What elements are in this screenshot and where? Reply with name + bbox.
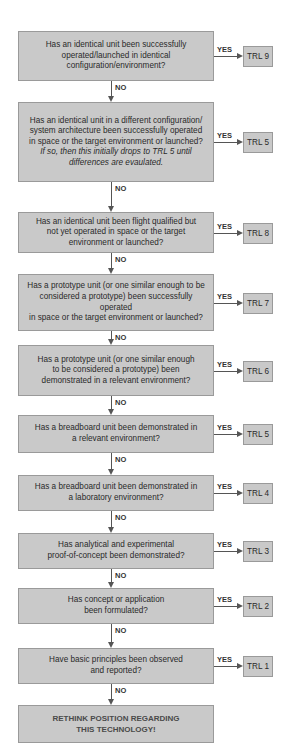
question-text: proof-of-concept been demonstrated?	[47, 551, 184, 562]
no-label: NO	[115, 333, 126, 342]
question-text: a laboratory environment?	[68, 493, 163, 504]
yes-label: YES	[217, 222, 232, 231]
no-label: NO	[115, 398, 126, 407]
question-text: been formulated?	[84, 606, 148, 617]
no-label: NO	[115, 686, 126, 695]
yes-label: YES	[217, 423, 232, 432]
trl-result-box: TRL 6	[243, 361, 273, 382]
question-box: Has analytical and experimentalproof-of-…	[18, 533, 214, 569]
trl-result-box: TRL 5	[243, 424, 273, 445]
no-connector	[111, 624, 112, 643]
trl-result-box: TRL 9	[243, 46, 273, 67]
no-connector	[111, 684, 112, 700]
question-text: Has concept or application	[68, 595, 165, 606]
yes-connector	[214, 233, 238, 234]
question-box: Have basic principles been observedand r…	[18, 648, 214, 684]
question-text: environment or launched?	[69, 238, 164, 249]
no-label: NO	[115, 571, 126, 580]
no-connector	[111, 511, 112, 528]
no-label: NO	[115, 255, 126, 264]
question-box: Has a breadboard unit been demonstrated …	[18, 475, 214, 511]
question-note: differences are evaulated.	[69, 158, 163, 169]
yes-connector	[214, 434, 238, 435]
question-text: demonstrated in a relevant environment?	[42, 376, 191, 387]
yes-connector	[214, 303, 238, 304]
yes-label: YES	[217, 595, 232, 604]
question-text: Has an identical unit been successfully	[46, 40, 187, 51]
trl-result-box: TRL 3	[243, 541, 273, 562]
question-text: considered a prototype) been successfull…	[25, 292, 207, 313]
no-connector	[111, 569, 112, 583]
question-text: Has analytical and experimental	[58, 540, 174, 551]
trl-result-box: TRL 1	[243, 656, 273, 677]
yes-connector	[214, 551, 238, 552]
question-text: Has a prototype unit (or one similar eno…	[37, 355, 194, 366]
yes-connector	[214, 666, 238, 667]
yes-label: YES	[217, 45, 232, 54]
question-box: Has concept or applicationbeen formulate…	[18, 588, 214, 624]
question-text: Has a breadboard unit been demonstrated …	[35, 482, 198, 493]
yes-label: YES	[217, 131, 232, 140]
trl-result-box: TRL 4	[243, 483, 273, 504]
no-connector	[111, 453, 112, 470]
question-box: Has an identical unit been successfullyo…	[18, 31, 214, 81]
trl-result-box: TRL 7	[243, 293, 273, 314]
no-connector	[111, 81, 112, 97]
yes-label: YES	[217, 360, 232, 369]
question-box: Has an identical unit been flight qualif…	[18, 212, 214, 253]
yes-connector	[214, 371, 238, 372]
question-box: Has a prototype unit (or one similar eno…	[18, 345, 214, 396]
final-text: THIS TECHNOLOGY!	[76, 724, 156, 735]
question-text: and reported?	[91, 666, 142, 677]
yes-label: YES	[217, 292, 232, 301]
question-text: Has an identical unit been flight qualif…	[36, 217, 196, 228]
final-conclusion-box: RETHINK POSITION REGARDINGTHIS TECHNOLOG…	[18, 705, 214, 743]
question-text: Have basic principles been observed	[49, 655, 183, 666]
question-text: not yet operated in space or the target	[47, 227, 185, 238]
no-label: NO	[115, 184, 126, 193]
no-connector	[111, 253, 112, 269]
no-connector	[111, 182, 112, 207]
trl-result-box: TRL 5	[243, 132, 273, 153]
question-text: in space or the target environment or la…	[29, 137, 203, 148]
yes-label: YES	[217, 655, 232, 664]
question-text: Has a breadboard unit been demonstrated …	[35, 423, 198, 434]
no-connector	[111, 396, 112, 410]
yes-label: YES	[217, 540, 232, 549]
trl-result-box: TRL 2	[243, 596, 273, 617]
question-text: a relevant environment?	[72, 434, 160, 445]
question-note: If so, then this initially drops to TRL …	[40, 147, 191, 158]
question-text: system architecture been successfully op…	[30, 126, 202, 137]
final-text: RETHINK POSITION REGARDING	[52, 713, 179, 724]
question-text: operated/launched in identical	[62, 51, 171, 62]
trl-result-box: TRL 8	[243, 223, 273, 244]
no-label: NO	[115, 455, 126, 464]
yes-connector	[214, 493, 238, 494]
no-label: NO	[115, 626, 126, 635]
yes-connector	[214, 606, 238, 607]
question-box: Has a prototype unit (or one similar eno…	[18, 274, 214, 331]
no-label: NO	[115, 83, 126, 92]
question-text: to be considered a prototype) been	[53, 365, 180, 376]
yes-connector	[214, 56, 238, 57]
question-text: configuration/environment?	[67, 61, 166, 72]
question-text: in space or the target environment or la…	[29, 313, 203, 324]
yes-label: YES	[217, 482, 232, 491]
question-text: Has a prototype unit (or one similar eno…	[27, 281, 205, 292]
question-text: Has an identical unit in a different con…	[30, 116, 202, 127]
yes-connector	[214, 142, 238, 143]
question-box: Has an identical unit in a different con…	[18, 102, 214, 182]
no-label: NO	[115, 513, 126, 522]
question-box: Has a breadboard unit been demonstrated …	[18, 415, 214, 453]
